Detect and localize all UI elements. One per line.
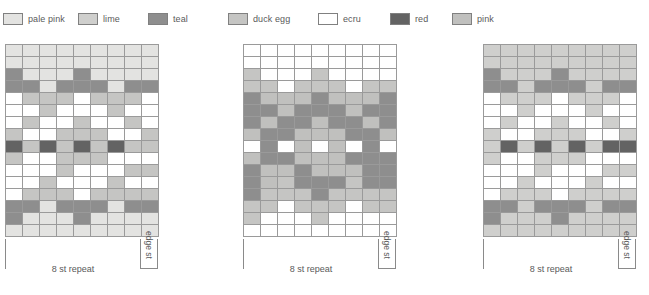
stitch-cell: [569, 213, 586, 225]
legend-label: pale pink: [28, 13, 65, 25]
stitch-cell: [74, 93, 91, 105]
stitch-cell: [535, 225, 552, 237]
stitch-cell: [261, 81, 278, 93]
stitch-cell: [501, 57, 518, 69]
stitch-cell: [108, 141, 125, 153]
legend-label: teal: [173, 13, 188, 25]
stitch-cell: [91, 93, 108, 105]
stitch-cell: [518, 141, 535, 153]
stitch-cell: [57, 165, 74, 177]
stitch-cell: [484, 177, 501, 189]
stitch-cell: [312, 225, 329, 237]
stitch-cell: [586, 117, 603, 129]
stitch-cell: [23, 105, 40, 117]
stitch-cell: [518, 129, 535, 141]
stitch-cell: [380, 177, 397, 189]
stitch-cell: [74, 45, 91, 57]
stitch-cell: [57, 45, 74, 57]
stitch-cell: [380, 141, 397, 153]
legend-item-teal: teal: [148, 9, 188, 29]
stitch-cell: [125, 69, 142, 81]
stitch-cell: [295, 225, 312, 237]
stitch-cell: [346, 117, 363, 129]
stitch-cell: [295, 213, 312, 225]
stitch-cell: [142, 69, 159, 81]
stitch-cell: [329, 141, 346, 153]
stitch-cell: [518, 201, 535, 213]
repeat-bracket: 8 st repeat: [483, 239, 619, 269]
stitch-cell: [23, 81, 40, 93]
stitch-cell: [501, 45, 518, 57]
stitch-cell: [125, 93, 142, 105]
stitch-cell: [108, 165, 125, 177]
stitch-cell: [40, 45, 57, 57]
stitch-cell: [484, 81, 501, 93]
stitch-cell: [108, 153, 125, 165]
stitch-cell: [329, 201, 346, 213]
stitch-cell: [535, 141, 552, 153]
stitch-cell: [57, 129, 74, 141]
stitch-cell: [312, 153, 329, 165]
stitch-cell: [569, 129, 586, 141]
stitch-cell: [518, 45, 535, 57]
stitch-cell: [57, 117, 74, 129]
stitch-cell: [261, 57, 278, 69]
stitch-cell: [40, 213, 57, 225]
stitch-cell: [40, 189, 57, 201]
stitch-cell: [244, 45, 261, 57]
stitch-cell: [363, 225, 380, 237]
legend-item-lime: lime: [78, 9, 120, 29]
stitch-cell: [40, 177, 57, 189]
stitch-cell: [57, 189, 74, 201]
stitch-cell: [586, 213, 603, 225]
stitch-cell: [108, 129, 125, 141]
stitch-cell: [586, 81, 603, 93]
stitch-cell: [518, 225, 535, 237]
stitch-cell: [312, 129, 329, 141]
stitch-cell: [57, 153, 74, 165]
stitch-cell: [23, 189, 40, 201]
chart-footer: 8 st repeatedge st: [5, 239, 159, 279]
stitch-cell: [380, 201, 397, 213]
stitch-cell: [40, 93, 57, 105]
stitch-cell: [6, 189, 23, 201]
stitch-cell: [91, 153, 108, 165]
stitch-cell: [346, 105, 363, 117]
stitch-cell: [346, 177, 363, 189]
stitch-cell: [108, 189, 125, 201]
stitch-cell: [380, 69, 397, 81]
stitch-cell: [603, 225, 620, 237]
stitch-cell: [569, 117, 586, 129]
stitch-cell: [108, 105, 125, 117]
stitch-cell: [501, 93, 518, 105]
stitch-cell: [295, 141, 312, 153]
stitch-cell: [23, 225, 40, 237]
stitch-cell: [518, 57, 535, 69]
stitch-grid: [243, 44, 397, 237]
stitch-cell: [261, 177, 278, 189]
stitch-cell: [295, 153, 312, 165]
legend-swatch-duck-egg: [228, 13, 248, 25]
stitch-cell: [74, 177, 91, 189]
stitch-cell: [363, 177, 380, 189]
stitch-cell: [91, 57, 108, 69]
stitch-cell: [535, 45, 552, 57]
stitch-cell: [586, 189, 603, 201]
stitch-cell: [569, 165, 586, 177]
stitch-cell: [552, 189, 569, 201]
stitch-cell: [535, 213, 552, 225]
stitch-cell: [108, 93, 125, 105]
stitch-cell: [244, 105, 261, 117]
stitch-cell: [40, 57, 57, 69]
stitch-cell: [535, 69, 552, 81]
stitch-cell: [552, 225, 569, 237]
stitch-cell: [535, 189, 552, 201]
stitch-cell: [329, 189, 346, 201]
stitch-cell: [312, 45, 329, 57]
stitch-cell: [261, 225, 278, 237]
stitch-cell: [603, 177, 620, 189]
stitch-cell: [312, 69, 329, 81]
stitch-cell: [535, 153, 552, 165]
stitch-cell: [484, 165, 501, 177]
stitch-cell: [6, 177, 23, 189]
